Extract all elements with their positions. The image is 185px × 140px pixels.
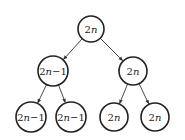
node-label: 2n−1: [39, 66, 67, 77]
tree-node-rr: 2n: [141, 103, 169, 131]
tree-node-rl: 2n: [100, 103, 128, 131]
node-label: 2n−1: [17, 112, 45, 123]
node-label: 2n: [149, 112, 162, 123]
tree-node-root: 2n: [78, 16, 104, 42]
edge-arrow-root-r: [100, 38, 123, 61]
tree-node-lr: 2n−1: [56, 102, 86, 132]
nodes: 2n2n−12n2n−12n−12n2n: [16, 16, 169, 132]
tree-node-ll: 2n−1: [16, 102, 46, 132]
node-label: 2n: [127, 66, 140, 77]
tree-node-r: 2n: [119, 57, 147, 85]
node-label: 2n: [108, 112, 121, 123]
tree-diagram: 2n2n−12n2n−12n−12n2n: [0, 0, 185, 140]
node-label: 2n: [85, 24, 98, 35]
node-label: 2n−1: [57, 112, 85, 123]
edge-arrow-l-lr: [58, 85, 65, 103]
tree-node-l: 2n−1: [38, 56, 68, 86]
edge-arrow-r-rl: [120, 84, 128, 104]
edge-arrow-root-l: [63, 39, 82, 60]
edge-arrow-r-rr: [139, 84, 149, 104]
edge-arrow-l-ll: [38, 85, 47, 103]
